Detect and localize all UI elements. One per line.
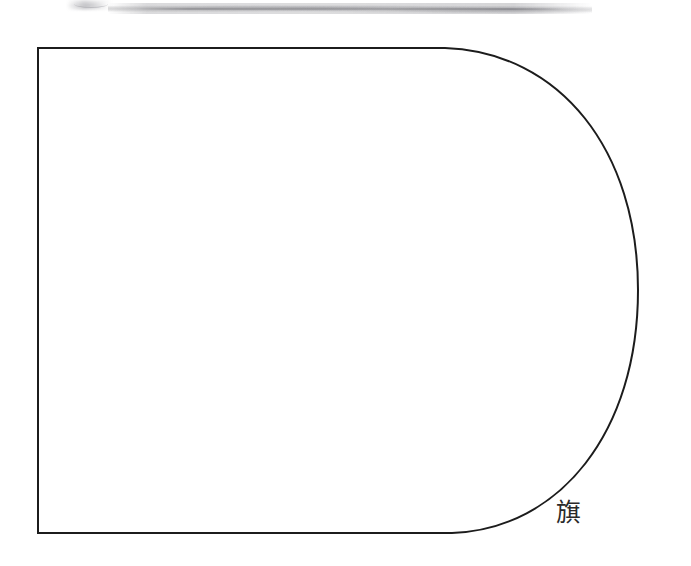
caption-character: 旗 bbox=[556, 500, 581, 525]
d-shape-figure bbox=[0, 0, 691, 566]
d-shape-outline-path bbox=[38, 48, 638, 533]
page-canvas: 旗 bbox=[0, 0, 691, 566]
